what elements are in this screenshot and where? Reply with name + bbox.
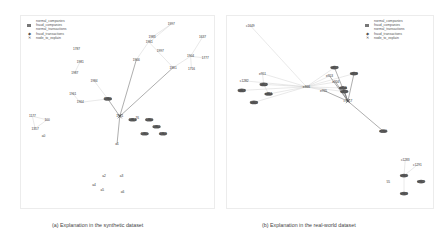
node-label: 1960 [146,118,153,122]
panel-real-world-graph: c1649e951c1282e852e863e864e865e866e854e9… [226,15,434,209]
node-label: 1966 [133,58,140,62]
node-label: a3 [120,174,124,178]
node-label: e866 [303,85,310,89]
graph-node-normal-transaction: 1983 [148,35,155,39]
node-label: 1637 [199,35,206,39]
graph-node-normal-transaction: e953 [326,74,333,78]
graph-edge [348,74,354,102]
graph-node-fraud-transaction: e858 [350,72,358,76]
node-label: 1962 [153,125,160,129]
graph-node-normal-company: c1291 [413,163,422,167]
node-label: 1961 [69,92,76,96]
node-label: e863 [238,89,245,93]
graph-node-normal-company: a6 [121,190,125,194]
graph-node-normal-company: a4 [92,183,96,187]
graph-node-normal-company: 1777 [202,56,209,60]
caption-synthetic: (a) Explanation in the synthetic dataset [52,222,143,228]
graph-node-fraud-transaction: 1960 [145,118,153,122]
node-label: e865 [250,101,257,105]
node-label: c1649 [246,24,255,28]
legend-label: node_to_explain [36,36,61,40]
node-label: e961 [400,174,407,178]
node-label: e852 [260,83,267,87]
node-label: e956 [332,80,339,84]
graph-node-normal-company: c1283 [401,158,410,162]
node-label: a2 [102,174,106,178]
node-label: 1961 [116,114,123,118]
legend-label: node_to_explain [374,36,399,40]
legend-item-node-to-explain: ✕node_to_explain [27,36,67,40]
node-label: 1961 [146,40,153,44]
graph-edge [120,60,137,117]
graph-node-fraud-transaction: e857 [330,66,338,70]
node-label: 1177 [29,114,36,118]
graph-node-fraud-transaction: e865 [250,101,258,105]
graph-node-normal-transaction: 1964 [77,100,84,104]
node-label: 1983 [148,35,155,39]
graph-node-normal-company: 1787 [73,47,80,51]
graph-node-normal-transaction: e951 [259,72,266,76]
node-label: e951 [259,72,266,76]
graph-node-normal-transaction: 1987 [71,71,78,75]
graph-node-normal-company: a0 [42,134,46,138]
normal-companies-icon [27,19,32,23]
graph-node-fraud-transaction: e859 [340,90,348,94]
graph-node-normal-company: 100 [44,118,50,122]
node-label: e963 [400,192,407,196]
graph-edge [117,116,120,144]
graph-node-normal-company: c1649 [246,24,255,28]
graph-canvas-real-world: c1649e951c1282e852e863e864e865e866e854e9… [227,16,433,208]
graph-node-node-to-explain: 1961 [116,114,123,118]
graph-node-normal-company: 76 [135,116,139,120]
legend-item-node-to-explain: ✕node_to_explain [365,36,405,40]
graph-canvas-synthetic: 1787199719831966196119971637190417771716… [21,16,214,208]
graph-node-fraud-transaction: e960 [379,129,387,133]
node-label: e953 [326,74,333,78]
graph-node-normal-transaction: 1981 [77,60,84,64]
node-label: c1291 [413,163,422,167]
graph-node-normal-company: a5 [101,188,105,192]
graph-node-normal-transaction: e866 [303,85,310,89]
graph-node-normal-company: 1716 [188,67,195,71]
node-label: 1987 [71,71,78,75]
node-label: 100 [44,118,50,122]
graph-edge [348,101,383,131]
legend-real-world: normal_companies fraud_companies normal_… [365,19,405,40]
graph-node-normal-transaction: 1997 [157,49,164,53]
node-label: 76 [135,116,139,120]
node-label: 1716 [188,67,195,71]
graph-edge [120,68,173,117]
panel-synthetic-graph: 1787199719831966196119971637190417771716… [20,15,215,209]
graph-node-normal-transaction: 1961 [69,92,76,96]
graph-node-normal-transaction: 1961 [146,40,153,44]
node-label: 1777 [202,56,209,60]
graph-node-normal-transaction: 1966 [133,58,140,62]
graph-node-fraud-transaction: e961 [400,174,408,178]
graph-node-fraud-transaction: 1967 [159,132,167,136]
node-label: 1981 [170,66,177,70]
node-label: 1997 [168,22,175,26]
graph-node-fraud-transaction: e963 [400,192,408,196]
normal-companies-icon [365,19,370,23]
node-label: 1787 [73,47,80,51]
graph-node-normal-company: 1357 [32,127,39,131]
graph-node-normal-transaction: 1997 [168,22,175,26]
node-label: 1997 [157,49,164,53]
node-label: e857 [331,66,338,70]
graph-node-normal-transaction: 1984 [90,79,97,83]
node-label: 1357 [32,127,39,131]
node-label: e955 [320,89,327,93]
node-label: 1964 [77,100,84,104]
graph-node-fraud-transaction: 1962 [152,125,160,129]
node-label: 1967 [159,132,166,136]
graph-node-fraud-transaction: 1980 [104,97,112,101]
node-label: e962 [418,180,425,184]
node-label: 1904 [187,54,194,58]
graph-node-fraud-transaction: 1965 [140,132,148,136]
node-label: c1617 [344,99,353,103]
graph-node-normal-transaction: e955 [320,89,327,93]
graph-node-normal-company: c1282 [240,79,249,83]
node-label: a5 [101,188,105,192]
graph-node-normal-company: a2 [102,174,106,178]
cross-icon: ✕ [27,36,32,40]
